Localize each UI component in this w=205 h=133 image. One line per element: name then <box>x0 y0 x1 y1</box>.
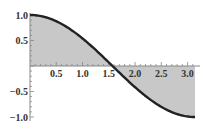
y-tick-label: −0.5 <box>10 86 28 97</box>
x-tick-label: 2.0 <box>129 68 142 79</box>
y-tick-label: 0.5 <box>16 35 29 46</box>
x-tick-label: 1.0 <box>76 68 89 79</box>
y-tick-label: 1.0 <box>16 10 29 21</box>
y-tick-labels: 1.00.5−0.5−1.0 <box>10 10 28 123</box>
y-tick-label: −1.0 <box>10 112 28 123</box>
cosine-area-chart: 0.51.01.52.02.53.0 1.00.5−0.5−1.0 <box>0 0 205 133</box>
x-tick-label: 3.0 <box>181 68 194 79</box>
x-tick-label: 0.5 <box>50 68 63 79</box>
x-tick-label: 1.5 <box>103 68 116 79</box>
x-tick-label: 2.5 <box>155 68 168 79</box>
